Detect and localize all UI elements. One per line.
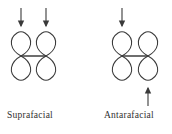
label-antarafacial: Antarafacial <box>104 110 154 120</box>
arrow-up-antarafacial-bottom <box>145 87 151 106</box>
group-antarafacial <box>112 8 157 106</box>
arrow-down-suprafacial-left <box>18 8 24 27</box>
arrow-down-antarafacial-top <box>119 8 125 27</box>
arrow-down-suprafacial-right <box>43 8 49 27</box>
group-suprafacial <box>11 8 55 81</box>
label-suprafacial: Suprafacial <box>7 110 53 120</box>
orbital-diagram: Suprafacial Antarafacial <box>0 0 172 134</box>
